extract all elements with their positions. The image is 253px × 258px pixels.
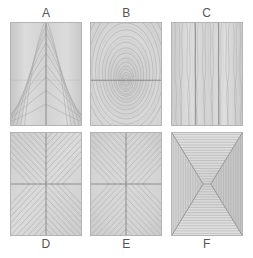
panel-d[interactable] <box>10 132 82 236</box>
panel-e[interactable] <box>90 132 162 236</box>
panel-label-f: F <box>203 237 211 252</box>
panel-c-grain <box>172 23 242 125</box>
panel-a-grain <box>11 23 81 125</box>
panel-wrap-f <box>171 132 243 236</box>
panel-label-d: D <box>42 237 51 252</box>
panel-cell-d: D <box>9 131 83 252</box>
panel-label-b: B <box>122 6 131 21</box>
panel-wrap-d <box>10 132 82 236</box>
panel-cell-a: A <box>9 6 83 127</box>
panel-f-grain <box>172 133 242 235</box>
panel-wrap-b <box>90 22 162 126</box>
panel-a[interactable] <box>10 22 82 126</box>
panel-grid: A <box>0 0 253 258</box>
panel-d-grain <box>11 133 81 235</box>
panel-b-grain <box>91 23 161 125</box>
panel-cell-b: B <box>89 6 163 127</box>
panel-e-grain <box>91 133 161 235</box>
panel-cell-c: C <box>170 6 244 127</box>
panel-cell-e: E <box>89 131 163 252</box>
panel-label-a: A <box>42 6 51 21</box>
panel-label-c: C <box>202 6 211 21</box>
panel-wrap-c <box>171 22 243 126</box>
panel-wrap-e <box>90 132 162 236</box>
panel-c[interactable] <box>171 22 243 126</box>
panel-f[interactable] <box>171 132 243 236</box>
wood-grain-figure: A <box>0 0 253 258</box>
panel-wrap-a <box>10 22 82 126</box>
panel-b[interactable] <box>90 22 162 126</box>
panel-cell-f: F <box>170 131 244 252</box>
panel-label-e: E <box>122 237 131 252</box>
